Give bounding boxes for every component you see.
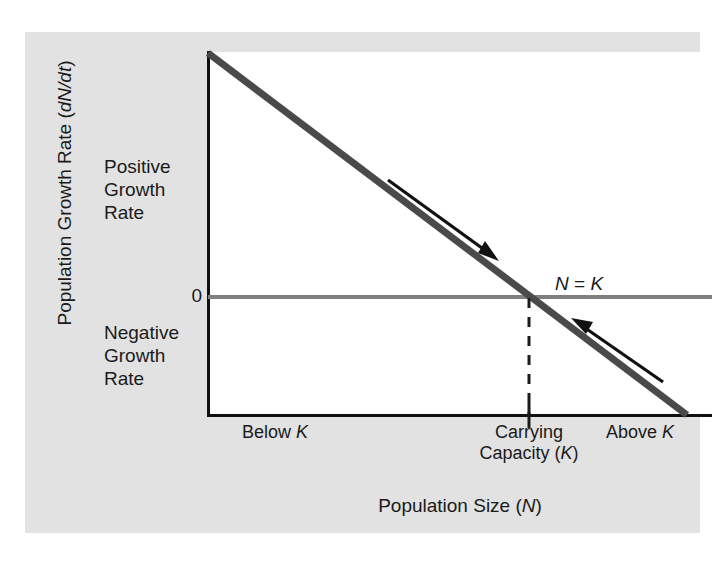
carrying-capacity-suffix: ) [573,443,579,463]
y-axis-label: Population Growth Rate (dN/dt) [54,28,76,358]
positive-zone-line-3: Rate [104,201,171,224]
x-tick-label-below-k: Below K [200,422,350,443]
equilibrium-k: K [590,273,603,294]
x-axis-label: Population Size (N) [210,495,710,517]
figure-container: Population Growth Rate (dN/dt) 0 Positiv… [0,0,714,561]
equilibrium-equals: = [569,273,591,294]
y-axis-label-prefix: Population Growth Rate ( [54,112,75,325]
arrow-toward-k-from-below [388,180,499,261]
x-tick-label-above-k: Above K [570,422,710,443]
carrying-capacity-italic: K [561,443,573,463]
negative-zone-line-3: Rate [104,367,179,390]
x-axis-label-italic: N [522,495,536,516]
chart-panel: Population Growth Rate (dN/dt) 0 Positiv… [25,32,700,533]
negative-growth-zone-label: Negative Growth Rate [104,321,179,390]
equilibrium-annotation: N = K [555,273,603,295]
carrying-capacity-prefix: Capacity ( [479,443,560,463]
y-axis-label-suffix: ) [54,60,75,66]
y-axis-zero-label: 0 [168,285,202,307]
positive-growth-zone-label: Positive Growth Rate [104,155,171,224]
negative-zone-line-2: Growth [104,344,179,367]
carrying-capacity-line-2: Capacity (K) [454,443,604,464]
positive-zone-line-2: Growth [104,178,171,201]
y-axis-label-italic: dN/dt [54,67,75,112]
equilibrium-n: N [555,273,569,294]
arrow-toward-k-from-above [571,318,663,382]
below-k-italic: K [296,422,308,442]
above-k-text: Above [606,422,662,442]
positive-zone-line-1: Positive [104,155,171,178]
above-k-italic: K [662,422,674,442]
negative-zone-line-1: Negative [104,321,179,344]
growth-rate-trend-line [208,53,687,415]
below-k-text: Below [242,422,296,442]
x-axis-label-suffix: ) [536,495,542,516]
x-axis-label-prefix: Population Size ( [378,495,522,516]
